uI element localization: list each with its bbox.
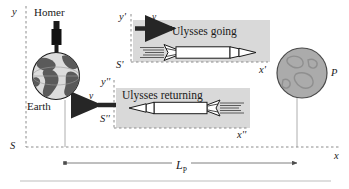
axis-label-x: x — [334, 151, 339, 162]
axis-label-y: y — [12, 7, 17, 18]
ship-label-returning: Ulysses returning — [122, 90, 203, 102]
body-label-planet: P — [331, 68, 337, 79]
distance-label-lp: LP — [172, 156, 191, 175]
axis-label-y-double-prime: y'' — [101, 77, 110, 88]
ship-label-going: Ulysses going — [172, 26, 237, 38]
distance-label-subscript: P — [183, 166, 187, 175]
homer-figure — [52, 21, 62, 54]
axis-label-x-double-prime: x'' — [237, 130, 246, 141]
axis-label-x-prime: x' — [259, 65, 266, 76]
observer-label-homer: Homer — [34, 7, 65, 18]
axis-label-y-prime: y' — [119, 12, 126, 23]
distance-label-main: L — [176, 158, 183, 172]
frame-label-S-double-prime: S'' — [100, 114, 110, 125]
velocity-label-going: v — [152, 13, 156, 23]
frame-label-S-prime: S' — [116, 60, 124, 71]
relativity-twin-paradox-figure: y S x Homer Earth P y' S' x' v Ulysses g… — [0, 0, 349, 189]
planet-p — [277, 48, 327, 98]
body-label-earth: Earth — [27, 101, 51, 112]
earth-globe — [32, 53, 80, 100]
velocity-label-returning: v — [89, 92, 93, 102]
frame-label-S: S — [10, 141, 15, 152]
